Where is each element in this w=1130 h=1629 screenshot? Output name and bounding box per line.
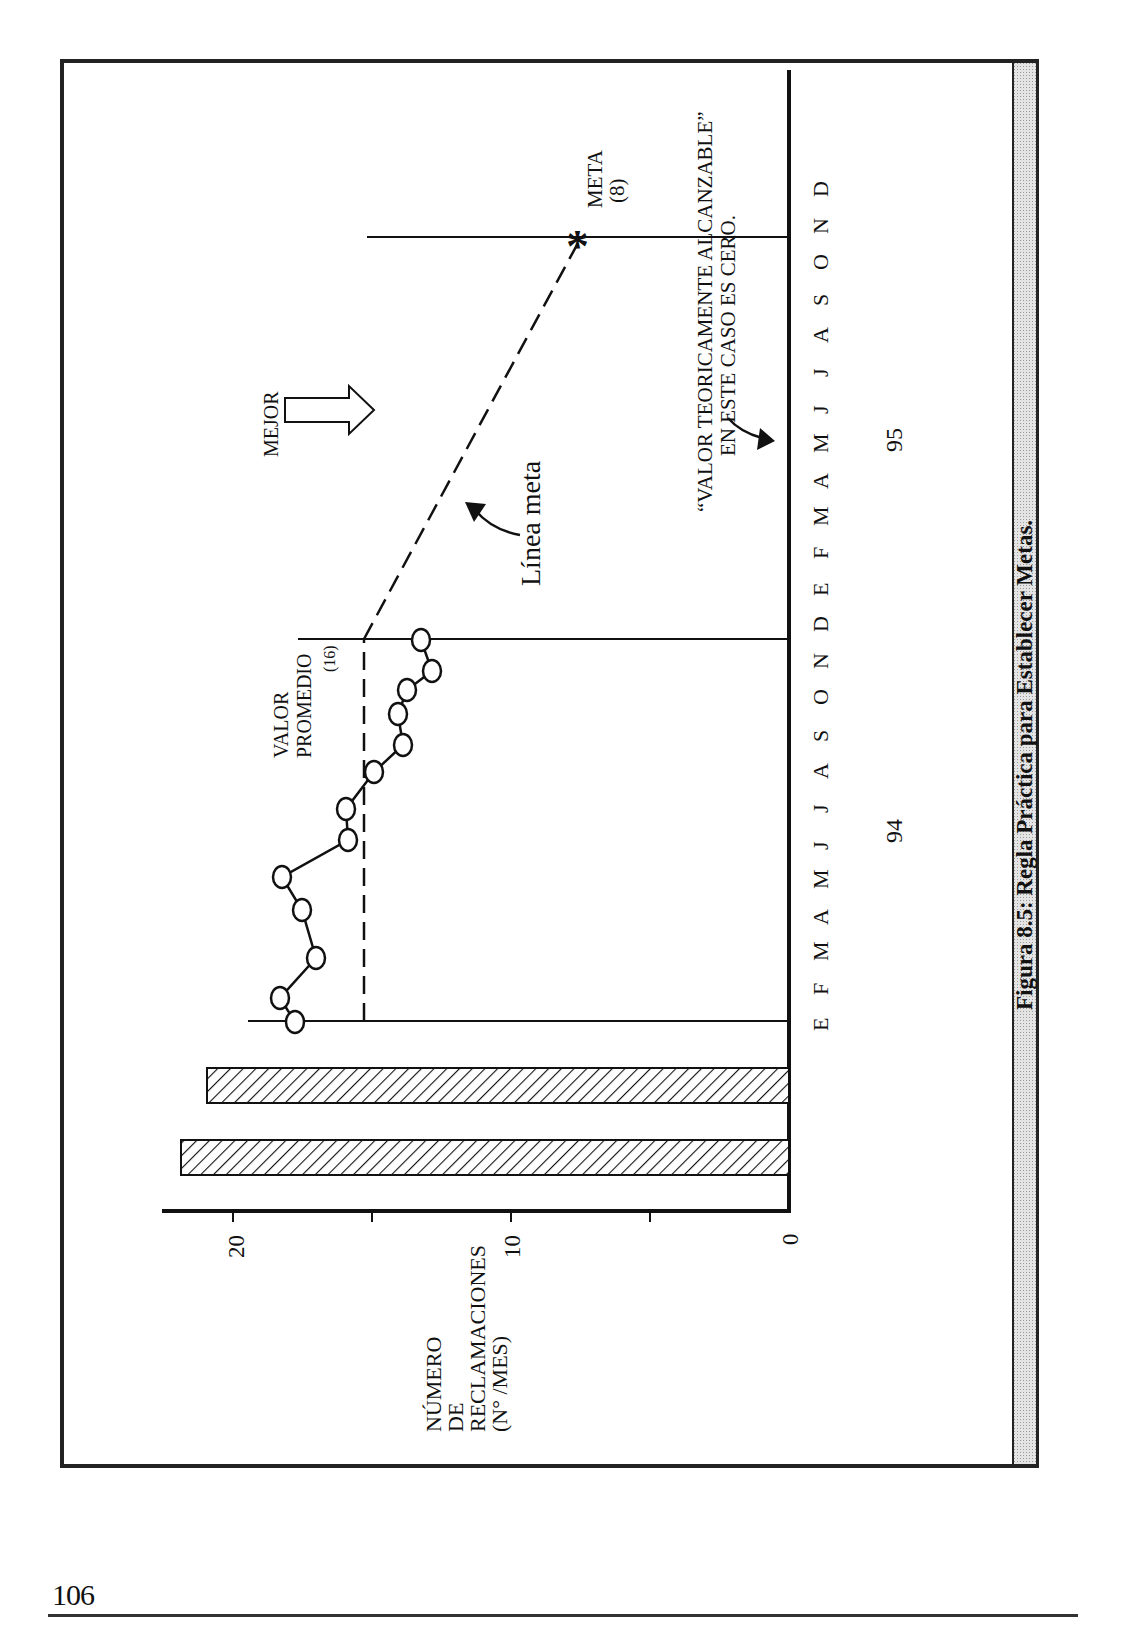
- svg-text:D: D: [808, 181, 833, 197]
- month-labels-1995: E F M A M J J A S O N D: [808, 181, 833, 596]
- svg-text:A: A: [808, 909, 833, 925]
- tick-label-10: 10: [500, 1235, 525, 1258]
- svg-text:O: O: [808, 689, 833, 705]
- better-arrow-icon: [285, 386, 374, 434]
- svg-text:VALOR: VALOR: [270, 691, 292, 758]
- theoretical-arrowhead-icon: [757, 428, 775, 450]
- svg-text:PROMEDIO: PROMEDIO: [293, 654, 315, 758]
- baseline-bar-2: [207, 1068, 789, 1103]
- svg-text:A: A: [808, 327, 833, 343]
- better-label: MEJOR: [260, 391, 282, 457]
- tick-label-20: 20: [224, 1235, 249, 1258]
- page-number: 106: [52, 1578, 94, 1612]
- page-footer-rule: [48, 1614, 1078, 1617]
- svg-text:J: J: [808, 804, 833, 813]
- goal-label: META (8): [583, 149, 629, 208]
- svg-text:J: J: [808, 405, 833, 414]
- svg-text:S: S: [808, 730, 833, 742]
- svg-text:(16): (16): [321, 645, 339, 672]
- svg-text:(8): (8): [605, 179, 629, 204]
- goal-line-arrow-icon: [475, 510, 520, 535]
- year-label-94: 94: [881, 819, 907, 843]
- tick-label-0: 0: [778, 1234, 803, 1246]
- svg-text:J: J: [808, 368, 833, 377]
- svg-text:META: META: [583, 149, 607, 208]
- svg-text:E: E: [808, 583, 833, 596]
- svg-text:O: O: [808, 254, 833, 270]
- svg-text:(N° /MES): (N° /MES): [487, 1336, 512, 1432]
- value-axis-label: NÚMERO DE RECLAMACIONES (N° /MES): [421, 1245, 512, 1432]
- svg-text:N: N: [808, 653, 833, 669]
- baseline-bar-1: [181, 1140, 789, 1175]
- chart-figure: Figura 8.5: Regla Práctica para Establec…: [0, 0, 1130, 1629]
- svg-text:M: M: [808, 506, 833, 526]
- month-labels-1994: E F M A M J J A S O N D: [808, 616, 833, 1031]
- svg-text:F: F: [808, 983, 833, 995]
- svg-text:A: A: [808, 473, 833, 489]
- average-label: VALOR PROMEDIO (16): [270, 645, 339, 758]
- svg-text:M: M: [808, 869, 833, 889]
- svg-text:F: F: [808, 547, 833, 559]
- goal-line-label: Línea meta: [515, 460, 546, 586]
- figure-frame: [62, 61, 1037, 1466]
- svg-text:S: S: [808, 294, 833, 306]
- svg-text:E: E: [808, 1018, 833, 1031]
- svg-text:D: D: [808, 616, 833, 632]
- goal-asterisk-icon: *: [566, 221, 589, 272]
- theoretical-value-label: “VALOR TEORICAMENTE ALCANZABLE” EN ESTE …: [693, 111, 740, 512]
- figure-caption: Figura 8.5: Regla Práctica para Establec…: [1012, 520, 1037, 1010]
- svg-text:A: A: [808, 763, 833, 779]
- svg-text:“VALOR TEORICAMENTE ALCANZABLE: “VALOR TEORICAMENTE ALCANZABLE”: [693, 111, 717, 512]
- svg-text:M: M: [808, 433, 833, 453]
- svg-text:J: J: [808, 841, 833, 850]
- year-label-95: 95: [881, 428, 907, 452]
- svg-text:N: N: [808, 218, 833, 234]
- svg-text:M: M: [808, 941, 833, 961]
